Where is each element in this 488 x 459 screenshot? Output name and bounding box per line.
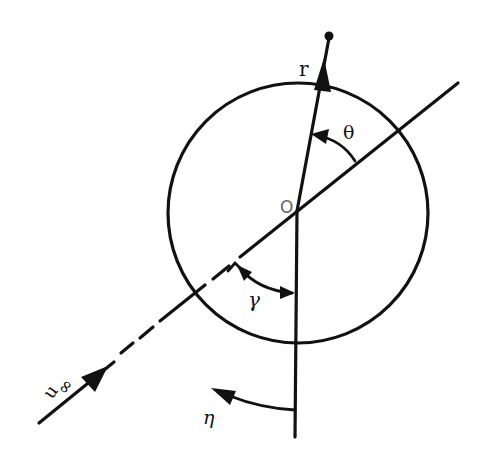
eta-angle [211, 388, 295, 410]
label-origin: O [280, 197, 293, 217]
theta-arrow-icon [311, 129, 329, 144]
radius-arrow-icon [314, 58, 331, 92]
figure-svg: r θ O γ η u ∞ [0, 0, 488, 459]
eta-arc [230, 396, 295, 410]
diagram-canvas: r θ O γ η u ∞ [0, 0, 488, 459]
label-freestream: u ∞ [38, 369, 77, 408]
label-eta: η [203, 406, 215, 428]
label-gamma: γ [248, 288, 260, 312]
freestream-dash-3 [140, 327, 153, 338]
freestream-dash-1 [213, 266, 229, 279]
freestream-arrow-icon [81, 366, 108, 392]
eta-arrow-icon [211, 388, 236, 405]
freestream-line [39, 83, 458, 423]
label-theta: θ [343, 121, 354, 143]
vertical-axis-line [295, 211, 297, 437]
freestream-dash-4 [121, 343, 133, 353]
radius-end-dot-icon [325, 32, 334, 41]
gamma-angle [237, 265, 295, 299]
label-r: r [299, 57, 309, 81]
freestream-dash-2 [160, 285, 205, 321]
gamma-arrow-end-icon [280, 286, 295, 299]
